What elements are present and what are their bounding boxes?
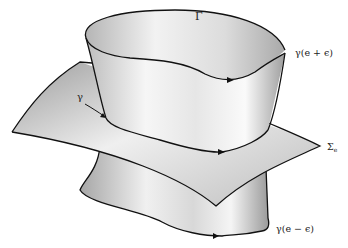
label-sigma-e: Σe <box>327 141 338 153</box>
label-gamma-e-plus-epsilon: γ(e + ϵ) <box>295 47 333 58</box>
label-gamma-e-minus-epsilon: γ(e − ϵ) <box>276 223 314 234</box>
diagram-canvas: Γ γ(e + ϵ) γ Σe γ(e − ϵ) <box>0 0 348 248</box>
label-gamma-capital: Γ <box>195 10 203 23</box>
label-sigma-subscript: e <box>334 146 338 153</box>
label-gamma: γ <box>77 91 83 102</box>
